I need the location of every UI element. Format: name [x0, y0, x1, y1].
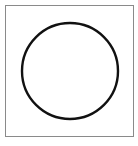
circle-diagram [0, 0, 138, 146]
circle-shape [22, 23, 118, 119]
diagram-canvas [0, 0, 138, 146]
